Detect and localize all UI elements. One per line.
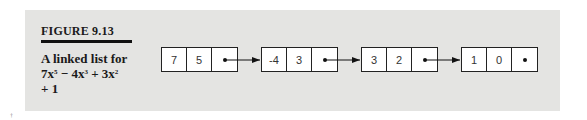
page-mark-icon: † [10,112,13,118]
pointer-arrows [0,0,587,120]
